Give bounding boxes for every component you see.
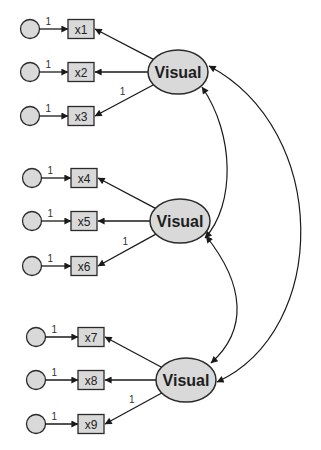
observed-variable-label: x3	[75, 110, 88, 124]
observed-variable-label: x1	[75, 23, 88, 37]
error-term-circle[interactable]	[27, 415, 46, 434]
observed-variable-label: x5	[78, 215, 91, 229]
factor-loading-weight: 1	[122, 236, 128, 247]
error-path-weight: 1	[48, 253, 54, 264]
sem-path-diagram: 1x11x21x31Visual1x41x51x61Visual1x71x81x…	[0, 0, 321, 450]
factor-group-2: 1x41x51x61Visual	[23, 165, 211, 276]
factor-group-1: 1x11x21x31Visual	[21, 16, 209, 126]
error-path-weight: 1	[52, 367, 58, 378]
error-term-circle[interactable]	[23, 257, 42, 276]
factor-group-3: 1x71x81x91Visual	[27, 324, 217, 434]
factor-loading-weight: 1	[120, 86, 126, 97]
error-term-circle[interactable]	[21, 107, 40, 126]
observed-variable-label: x6	[78, 260, 91, 274]
error-path-weight: 1	[52, 411, 58, 422]
factor-loading-arrow	[98, 178, 155, 208]
error-path-weight: 1	[52, 324, 58, 335]
error-path-weight: 1	[46, 16, 52, 27]
error-term-circle[interactable]	[23, 169, 42, 188]
error-path-weight: 1	[48, 165, 54, 176]
factor-loading-arrow	[105, 337, 162, 367]
observed-variable-label: x8	[85, 374, 98, 388]
observed-variable-label: x2	[75, 66, 88, 80]
latent-variable-label: Visual	[155, 64, 202, 81]
observed-variable-label: x9	[85, 418, 98, 432]
factor-loading-weight: 1	[129, 394, 135, 405]
observed-variable-label: x7	[85, 331, 98, 345]
error-term-circle[interactable]	[27, 328, 46, 347]
observed-variable-label: x4	[78, 172, 91, 186]
latent-variable-label: Visual	[157, 213, 204, 230]
factor-loading-arrow	[95, 29, 153, 59]
error-term-circle[interactable]	[21, 63, 40, 82]
error-path-weight: 1	[46, 103, 52, 114]
covariance-arcs	[202, 66, 301, 382]
error-term-circle[interactable]	[21, 20, 40, 39]
covariance-arc-1-3	[209, 66, 301, 382]
error-term-circle[interactable]	[27, 371, 46, 390]
error-path-weight: 1	[48, 208, 54, 219]
latent-variable-label: Visual	[163, 372, 210, 389]
error-term-circle[interactable]	[23, 212, 42, 231]
covariance-arc-2-3	[206, 236, 237, 363]
error-path-weight: 1	[46, 59, 52, 70]
